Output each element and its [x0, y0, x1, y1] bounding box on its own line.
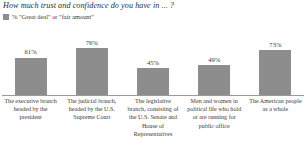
x-axis-label: The American people as a whole [245, 97, 306, 113]
bar-rect [15, 58, 47, 96]
bar-column: 45% [122, 22, 183, 96]
bar-rect [259, 50, 291, 96]
bar-rect [198, 65, 230, 96]
x-axis-line [2, 95, 304, 96]
plot-area: 61% 76% 45% 49% 73% [0, 22, 306, 96]
x-axis-label: Men and women in political life who hold… [184, 97, 245, 130]
bar-value-label: 45% [147, 60, 159, 67]
x-axis-label: The judicial branch, headed by the U.S. … [61, 97, 122, 122]
bar-value-label: 76% [86, 40, 98, 47]
x-axis-category-labels: The executive branch headed by the presi… [0, 97, 306, 138]
bar-column: 49% [184, 22, 245, 96]
chart-title: How much trust and confidence do you hav… [3, 1, 174, 10]
bar-value-label: 49% [208, 57, 220, 64]
bar-column: 61% [0, 22, 61, 96]
chart-container: How much trust and confidence do you hav… [0, 0, 306, 165]
bar-column: 76% [61, 22, 122, 96]
bar-rect [137, 68, 169, 96]
bar-value-label: 73% [269, 42, 281, 49]
bar-rect [76, 48, 108, 96]
legend-item-label: % "Great deal" or "fair amount" [12, 13, 94, 20]
legend-swatch-icon [3, 14, 9, 20]
chart-legend: % "Great deal" or "fair amount" [3, 13, 94, 20]
x-axis-label: The legislative branch, consisting of th… [122, 97, 183, 138]
bar-value-label: 61% [25, 49, 37, 56]
bar-column: 73% [245, 22, 306, 96]
bar-series: 61% 76% 45% 49% 73% [0, 22, 306, 96]
x-axis-label: The executive branch headed by the presi… [0, 97, 61, 122]
